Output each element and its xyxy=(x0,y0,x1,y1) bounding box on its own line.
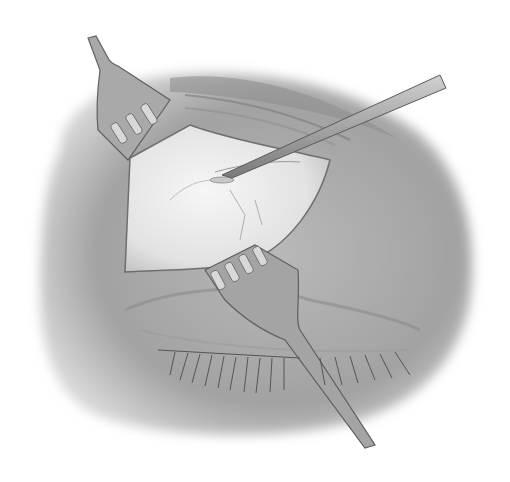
surgical-eye-illustration xyxy=(0,0,510,482)
illustration-canvas xyxy=(0,0,510,482)
